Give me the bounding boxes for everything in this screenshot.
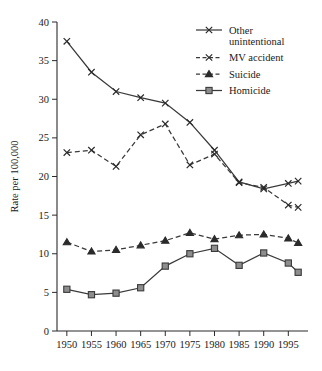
legend-label: Suicide xyxy=(229,69,261,80)
y-axis-title: Rate per 100,000 xyxy=(9,140,20,212)
line-chart: 0510152025303540195019551960196519701975… xyxy=(0,0,322,371)
marker-triangle xyxy=(63,239,70,245)
marker-triangle xyxy=(162,237,169,243)
y-tick-label: 25 xyxy=(39,132,50,143)
x-tick-label: 1955 xyxy=(81,339,102,350)
x-tick-label: 1975 xyxy=(179,339,200,350)
y-tick-label: 35 xyxy=(39,55,50,66)
marker-square xyxy=(206,87,212,93)
marker-square xyxy=(162,263,168,269)
marker-square xyxy=(285,260,291,266)
axis-ticks: 0510152025303540195019551960196519701975… xyxy=(39,17,299,350)
legend-label: Homicide xyxy=(229,85,271,96)
y-tick-label: 30 xyxy=(39,94,50,105)
marker-square xyxy=(138,285,144,291)
axes xyxy=(57,22,308,331)
series-homicide xyxy=(64,245,302,298)
x-tick-label: 1995 xyxy=(278,339,299,350)
legend-item-suicide[interactable]: Suicide xyxy=(196,69,261,80)
y-tick-label: 10 xyxy=(39,248,50,259)
x-tick-label: 1960 xyxy=(106,339,127,350)
marker-x xyxy=(113,163,119,169)
legend-label: MV accident xyxy=(229,52,283,63)
marker-square xyxy=(64,286,70,292)
marker-square xyxy=(211,245,217,251)
series-line xyxy=(67,41,298,189)
legend-item-homicide[interactable]: Homicide xyxy=(196,85,271,96)
chart-legend: OtherunintentionalMV accidentSuicideHomi… xyxy=(196,25,284,97)
legend-label: unintentional xyxy=(229,36,284,47)
series-mv-accident xyxy=(64,121,302,211)
marker-square xyxy=(113,290,119,296)
marker-triangle xyxy=(137,242,144,248)
marker-triangle xyxy=(295,239,302,245)
marker-x xyxy=(88,147,94,153)
marker-x xyxy=(187,119,193,125)
marker-square xyxy=(187,251,193,257)
y-tick-label: 5 xyxy=(44,287,49,298)
legend-item-mv-accident[interactable]: MV accident xyxy=(196,52,283,63)
marker-x xyxy=(88,69,94,75)
marker-square xyxy=(236,262,242,268)
marker-square xyxy=(295,269,301,275)
marker-triangle xyxy=(186,229,193,235)
marker-x xyxy=(137,132,143,138)
series-line xyxy=(67,124,298,207)
y-axis-title-text: Rate per 100,000 xyxy=(9,140,20,212)
marker-x xyxy=(162,121,168,127)
x-tick-label: 1970 xyxy=(155,339,176,350)
marker-triangle xyxy=(260,231,267,237)
marker-x xyxy=(64,38,70,44)
marker-square xyxy=(261,250,267,256)
y-tick-label: 15 xyxy=(39,210,50,221)
legend-item-other-unintentional[interactable]: Otherunintentional xyxy=(196,25,284,47)
data-series xyxy=(63,38,302,298)
x-tick-label: 1985 xyxy=(229,339,250,350)
x-tick-label: 1980 xyxy=(204,339,225,350)
x-tick-label: 1950 xyxy=(56,339,77,350)
marker-square xyxy=(88,292,94,298)
marker-x xyxy=(187,162,193,168)
y-tick-label: 20 xyxy=(39,171,50,182)
y-tick-label: 0 xyxy=(44,326,49,337)
legend-label: Other xyxy=(229,25,253,36)
x-tick-label: 1965 xyxy=(130,339,151,350)
chart-figure: 0510152025303540195019551960196519701975… xyxy=(0,0,322,371)
x-tick-label: 1990 xyxy=(253,339,274,350)
y-tick-label: 40 xyxy=(39,17,50,28)
